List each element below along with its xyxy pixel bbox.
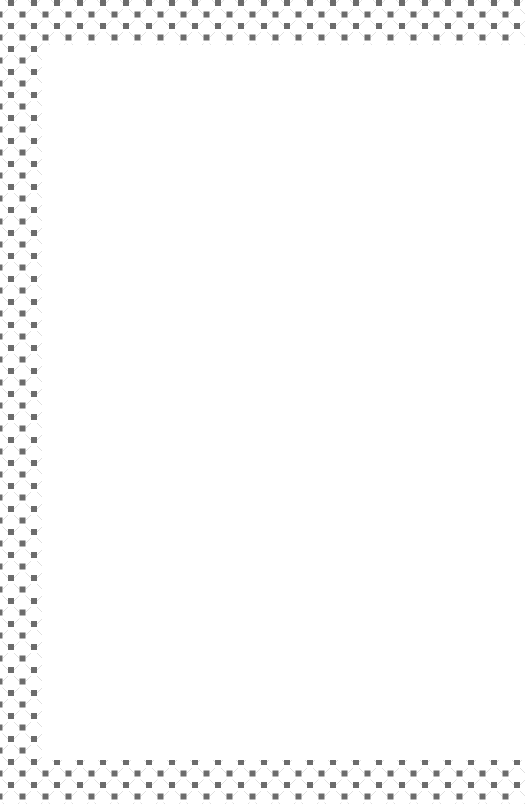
- blank-content-area: [42, 45, 525, 760]
- page: [0, 0, 525, 804]
